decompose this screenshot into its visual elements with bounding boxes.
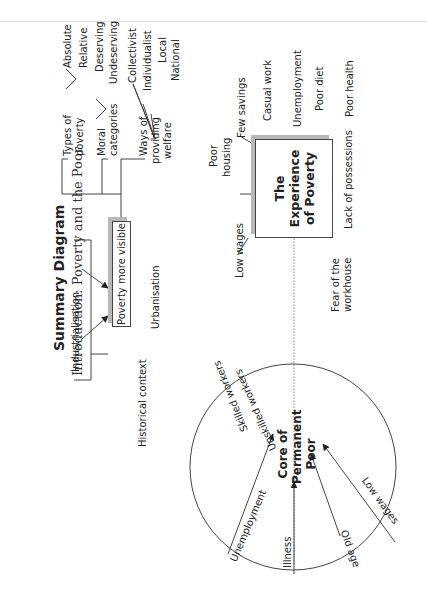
concept-welfare-line2: providing (150, 117, 161, 164)
factor-poor-diet: Poor diet (314, 67, 325, 111)
child-local: Local (157, 37, 168, 63)
concept-types-of-poverty-line2: poverty (74, 118, 85, 157)
factor-fear-workhouse-line2: workhouse (342, 258, 353, 312)
poverty-more-visible-label: Poverty more visible (113, 222, 130, 326)
factor-unemployment: Unemployment (292, 50, 303, 127)
core-line1: Core of (276, 424, 290, 484)
input-illness: Illness (282, 537, 293, 568)
factor-casual-work: Casual work (262, 60, 273, 121)
child-individualist: Individualist (142, 30, 153, 91)
core-line2: Permanent (290, 424, 304, 484)
child-national: National (170, 39, 181, 81)
factor-lack-of-possessions: Lack of possessions (343, 130, 354, 229)
child-relative: Relative (78, 28, 89, 68)
child-collectivist: Collectivist (127, 28, 138, 83)
diagram-canvas: Summary Diagram Introduction: Poverty an… (0, 0, 427, 614)
experience-line1: The (272, 140, 287, 237)
cause-urbanisation: Urbanisation (150, 265, 161, 329)
factor-fear-workhouse-line1: Fear of the (330, 258, 341, 312)
factor-poor-housing-line2: housing (221, 138, 232, 177)
factor-low-wages: Low wages (234, 223, 245, 278)
factor-poor-health: Poor health (344, 60, 355, 117)
concept-types-of-poverty-line1: Types of (62, 115, 73, 156)
cause-industrialisation: Industrialisation (70, 292, 81, 372)
child-absolute: Absolute (62, 24, 73, 68)
concept-welfare-line1: Ways of (138, 117, 149, 156)
child-undeserving: Undeserving (108, 21, 119, 84)
core-line3: Poor (304, 424, 318, 484)
experience-of-poverty-box: The Experience of Poverty (255, 139, 333, 238)
concept-moral-line2: categories (108, 104, 119, 156)
experience-line3: of Poverty (302, 140, 317, 237)
factor-few-savings: Few savings (236, 77, 247, 138)
concept-moral-line1: Moral (96, 128, 107, 156)
concept-welfare-line3: welfare (162, 122, 173, 159)
factor-poor-housing-line1: Poor (208, 145, 219, 167)
historical-context-label: Historical context (137, 359, 148, 447)
diagram-title: Summary Diagram (51, 205, 67, 351)
child-deserving: Deserving (94, 21, 105, 72)
poverty-more-visible-box: Poverty more visible (112, 221, 131, 327)
experience-line2: Experience (287, 140, 302, 237)
